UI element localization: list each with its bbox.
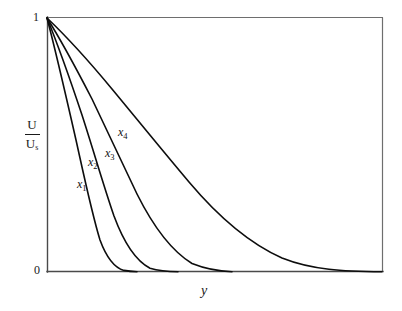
curve-x3 [47,18,232,272]
curve-label-x4: x4 [118,126,128,138]
y-axis-label-denominator: Us [17,136,47,151]
curve-label-x1: x1 [77,178,87,190]
y-axis-tick-top: 1 [33,11,39,23]
plot-canvas [0,0,402,311]
curve-label-x3: x3 [105,147,115,159]
y-axis-label: U Us [17,118,47,150]
chart-figure: 1 0 U Us y x1 x2 x3 x4 [0,0,402,311]
y-axis-label-denominator-base: U [26,136,35,151]
curve-label-x2: x2 [88,156,98,168]
y-axis-label-denominator-subscript: s [35,143,38,152]
curve-label-x2-subscript: 2 [93,161,97,171]
y-axis-tick-bottom: 0 [34,264,40,276]
curve-label-x4-subscript: 4 [123,131,127,141]
curve-x4 [47,18,382,272]
fraction-bar [25,134,40,135]
x-axis-label: y [201,284,207,298]
curve-label-x3-subscript: 3 [110,152,114,162]
y-axis-label-numerator: U [17,118,47,133]
curve-label-x1-subscript: 1 [82,183,86,193]
